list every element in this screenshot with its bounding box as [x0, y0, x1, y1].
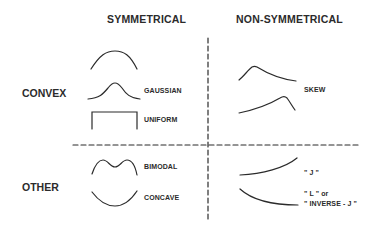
- label-bimodal: BIMODAL: [144, 163, 177, 170]
- right-skew-curve: [239, 66, 296, 81]
- label-concave: CONCAVE: [144, 194, 179, 201]
- left-skew-curve: [239, 97, 295, 114]
- column-header-non-symmetrical: NON-SYMMETRICAL: [236, 13, 343, 25]
- uniform-shape: [92, 112, 137, 129]
- label-l-line1: " L " or: [304, 190, 328, 197]
- label-uniform: UNIFORM: [144, 116, 177, 123]
- l-curve: [240, 189, 298, 205]
- j-curve: [240, 158, 297, 175]
- label-l-line2: " INVERSE - J ": [304, 200, 357, 207]
- broad-hump-curve: [91, 51, 137, 69]
- label-skew: SKEW: [304, 86, 325, 93]
- column-header-symmetrical: SYMMETRICAL: [107, 13, 186, 25]
- label-gaussian: GAUSSIAN: [144, 87, 182, 94]
- row-header-convex: CONVEX: [22, 87, 66, 99]
- concave-curve: [92, 191, 137, 206]
- bimodal-curve: [92, 160, 137, 175]
- row-header-other: OTHER: [22, 181, 59, 193]
- label-j: " J ": [304, 169, 319, 176]
- gaussian-curve: [88, 83, 140, 99]
